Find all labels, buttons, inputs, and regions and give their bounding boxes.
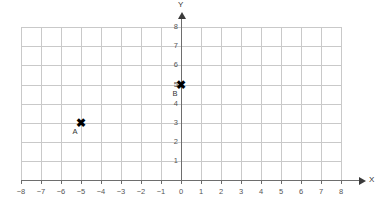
x-axis-tick (121, 180, 122, 184)
point-label-b: B (172, 90, 177, 98)
x-axis-tick-label: −3 (117, 188, 126, 196)
y-axis-tick-label: 7 (170, 43, 178, 51)
x-axis-tick-label: −5 (77, 188, 86, 196)
x-axis-tick (221, 180, 222, 184)
x-axis-tick (341, 180, 342, 184)
coordinate-plane: −8−7−6−5−4−3−2−101234567812345678XY✖A✖B (0, 0, 378, 205)
y-axis-tick-label: 2 (170, 138, 178, 146)
x-axis-tick-label: 7 (319, 188, 323, 196)
y-axis-tick-label: 4 (170, 100, 178, 108)
x-axis-tick (21, 180, 22, 184)
x-axis-tick (301, 180, 302, 184)
x-axis-tick-label: 3 (239, 188, 243, 196)
x-axis-tick-label: 0 (179, 188, 183, 196)
x-axis-tick-label: 1 (199, 188, 203, 196)
y-axis (181, 17, 182, 180)
x-axis-tick (261, 180, 262, 184)
x-axis-tick (321, 180, 322, 184)
x-axis-tick-label: 6 (299, 188, 303, 196)
grid-line-vertical (341, 27, 342, 180)
x-axis-tick-label: 5 (279, 188, 283, 196)
x-axis-tick-label: −8 (17, 188, 26, 196)
y-axis-tick-label: 1 (170, 157, 178, 165)
x-axis-tick (81, 180, 82, 184)
x-axis-tick (61, 180, 62, 184)
x-axis-name: X (369, 176, 374, 184)
y-axis-tick-label: 6 (170, 62, 178, 70)
y-axis-tick-label: 8 (170, 23, 178, 31)
x-axis-arrow-icon (359, 177, 366, 185)
x-axis-tick (41, 180, 42, 184)
x-axis-tick-label: 8 (339, 188, 343, 196)
x-axis-tick-label: 4 (259, 188, 263, 196)
y-axis-name: Y (178, 1, 183, 9)
x-axis-tick (241, 180, 242, 184)
point-label-a: A (72, 128, 77, 136)
y-axis-tick-label: 3 (170, 119, 178, 127)
x-axis-tick-label: −2 (137, 188, 146, 196)
x-axis-tick-label: −1 (157, 188, 166, 196)
x-axis-tick-label: −7 (37, 188, 46, 196)
x-axis-tick (181, 180, 182, 184)
y-axis-arrow-icon (178, 12, 186, 19)
x-axis-tick (141, 180, 142, 184)
x-axis-tick (161, 180, 162, 184)
x-axis-tick (101, 180, 102, 184)
x-axis-tick (201, 180, 202, 184)
x-axis-tick-label: −4 (97, 188, 106, 196)
x-axis-tick (281, 180, 282, 184)
x-axis (21, 180, 361, 181)
x-axis-tick-label: 2 (219, 188, 223, 196)
x-axis-tick-label: −6 (57, 188, 66, 196)
